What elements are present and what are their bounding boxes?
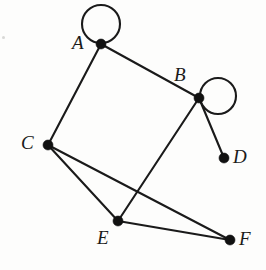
self-loop-b (200, 78, 236, 114)
graph-diagram-canvas: ABCDEF (0, 0, 266, 270)
vertex-label-c: C (21, 133, 34, 152)
vertex-node-b (194, 93, 204, 103)
graph-drawing-surface (0, 0, 266, 270)
vertex-node-d (219, 153, 229, 163)
vertex-label-e: E (97, 228, 109, 247)
vertex-label-d: D (233, 147, 247, 166)
vertices-group (43, 39, 235, 245)
vertex-label-b: B (174, 65, 186, 84)
vertex-node-e (113, 216, 123, 226)
self-loops-group (82, 5, 236, 114)
edge-c-f (48, 145, 230, 240)
edge-a-c (48, 44, 101, 145)
vertex-node-f (225, 235, 235, 245)
self-loop-a (82, 5, 120, 43)
edges-group (48, 44, 230, 240)
edge-c-e (48, 145, 118, 221)
vertex-label-f: F (239, 229, 251, 248)
vertex-label-a: A (72, 33, 84, 52)
scan-artifact-0 (2, 36, 5, 39)
vertex-node-a (96, 39, 106, 49)
vertex-node-c (43, 140, 53, 150)
